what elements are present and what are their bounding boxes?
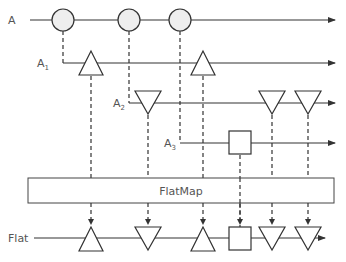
stream-a2-label: A2: [113, 97, 125, 112]
circle-marble-2: [118, 9, 140, 31]
projection-lines-lower: [91, 203, 308, 224]
flatmap-label: FlatMap: [159, 185, 203, 198]
circle-marble-1: [52, 9, 74, 31]
circle-marble-3: [169, 9, 191, 31]
output-square: [229, 227, 251, 250]
substream-spawn-lines: [63, 31, 180, 143]
output-triangle-up: [191, 227, 215, 251]
stream-a1-label: A1: [37, 57, 49, 72]
marble-diagram: A A1 A2 A3 FlatMap: [0, 0, 346, 262]
output-items: [79, 227, 321, 251]
output-triangle-up: [79, 227, 103, 251]
stream-a-label: A: [8, 14, 16, 27]
square-marble: [229, 131, 251, 154]
stream-flat-label: Flat: [8, 232, 29, 245]
flatmap-operator-box: FlatMap: [28, 178, 334, 203]
stream-a-items: [52, 9, 191, 31]
stream-a3-label: A3: [164, 137, 176, 152]
